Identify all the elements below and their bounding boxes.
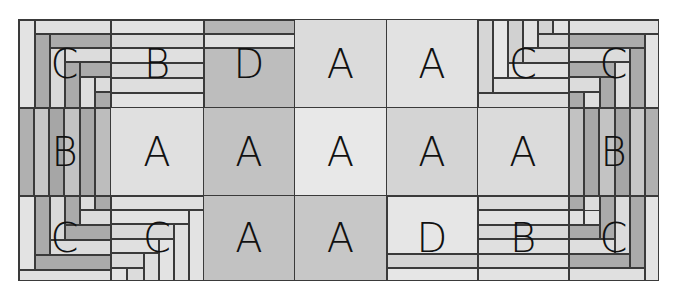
fabric-strip <box>19 108 34 196</box>
fabric-strip <box>569 34 645 48</box>
fabric-strip <box>630 108 645 196</box>
quilt-block-a: A <box>203 195 295 281</box>
quilt-block-b: B <box>568 107 659 196</box>
quilt-block-b: B <box>18 107 111 196</box>
fabric-strip <box>569 225 600 239</box>
fabric-strip <box>49 108 64 196</box>
fabric-strip <box>630 48 645 108</box>
quilt-block-c: C <box>568 195 659 281</box>
fabric-strip <box>569 20 659 34</box>
fabric-strip <box>35 196 50 255</box>
quilt-block-c: C <box>110 195 204 281</box>
fabric-strip <box>50 196 65 240</box>
quilt-block-c: C <box>568 19 659 108</box>
block-label: A <box>295 196 386 280</box>
quilt-block-c: C <box>18 195 111 281</box>
fabric-strip <box>144 253 159 281</box>
block-label: A <box>204 196 294 280</box>
fabric-strip <box>111 268 127 281</box>
fabric-strip <box>493 20 508 78</box>
fabric-strip <box>95 92 111 108</box>
fabric-strip <box>50 240 111 255</box>
quilt-block-b: B <box>477 195 569 281</box>
fabric-strip <box>508 20 523 63</box>
fabric-strip <box>95 108 111 196</box>
fabric-strip <box>80 77 95 108</box>
fabric-strip <box>80 196 95 210</box>
fabric-strip <box>19 20 35 108</box>
fabric-strip <box>19 196 35 270</box>
fabric-strip <box>204 48 295 108</box>
fabric-strip <box>523 48 569 63</box>
quilt-diagram: CBDAACCBAAAAABCCAADBC <box>18 19 659 281</box>
fabric-strip <box>478 210 569 225</box>
quilt-block-b: B <box>110 19 204 108</box>
fabric-strip <box>127 268 144 281</box>
fabric-strip <box>599 108 615 196</box>
fabric-strip <box>387 196 478 254</box>
fabric-strip <box>478 20 493 93</box>
quilt-block-a: A <box>294 19 387 108</box>
fabric-strip <box>493 78 569 93</box>
fabric-strip <box>615 196 630 254</box>
fabric-strip <box>50 34 111 48</box>
fabric-strip <box>569 210 584 225</box>
fabric-strip <box>111 210 189 224</box>
fabric-strip <box>615 108 630 196</box>
fabric-strip <box>615 62 630 108</box>
fabric-strip <box>600 196 615 239</box>
fabric-strip <box>523 20 538 48</box>
fabric-strip <box>111 48 204 63</box>
fabric-strip <box>19 270 111 281</box>
fabric-strip <box>478 268 569 281</box>
block-label: A <box>387 108 477 195</box>
fabric-strip <box>584 210 600 225</box>
fabric-strip <box>645 196 659 281</box>
quilt-block-c: C <box>18 19 111 108</box>
fabric-strip <box>600 77 615 108</box>
fabric-strip <box>111 224 174 239</box>
fabric-strip <box>111 34 204 48</box>
fabric-strip <box>35 34 50 108</box>
fabric-strip <box>645 108 659 196</box>
fabric-strip <box>204 20 295 34</box>
fabric-strip <box>645 34 659 108</box>
fabric-strip <box>65 196 80 225</box>
fabric-strip <box>630 196 645 268</box>
quilt-block-a: A <box>294 107 387 196</box>
fabric-strip <box>34 108 49 196</box>
fabric-strip <box>111 196 204 210</box>
fabric-strip <box>478 239 569 254</box>
fabric-strip <box>584 92 600 108</box>
fabric-strip <box>569 254 630 268</box>
fabric-strip <box>111 253 144 268</box>
fabric-strip <box>95 196 111 210</box>
fabric-strip <box>65 62 80 108</box>
fabric-strip <box>508 63 569 78</box>
fabric-strip <box>584 108 599 196</box>
block-label: A <box>387 20 477 107</box>
fabric-strip <box>95 77 111 92</box>
fabric-strip <box>35 20 111 34</box>
fabric-strip <box>80 210 111 225</box>
quilt-block-d: D <box>203 19 295 108</box>
block-label: A <box>111 108 203 195</box>
fabric-strip <box>111 239 159 253</box>
fabric-strip <box>80 62 111 77</box>
fabric-strip <box>35 255 111 270</box>
fabric-strip <box>538 20 553 34</box>
fabric-strip <box>538 34 569 48</box>
fabric-strip <box>80 108 95 196</box>
fabric-strip <box>189 210 204 281</box>
fabric-strip <box>159 239 174 281</box>
fabric-strip <box>478 254 569 268</box>
quilt-block-a: A <box>477 107 569 196</box>
block-label: A <box>295 108 386 195</box>
block-label: A <box>204 108 294 195</box>
fabric-strip <box>64 108 80 196</box>
quilt-block-c: C <box>477 19 569 108</box>
fabric-strip <box>478 93 569 108</box>
quilt-block-a: A <box>386 107 478 196</box>
block-label: A <box>295 20 386 107</box>
fabric-strip <box>111 20 204 34</box>
